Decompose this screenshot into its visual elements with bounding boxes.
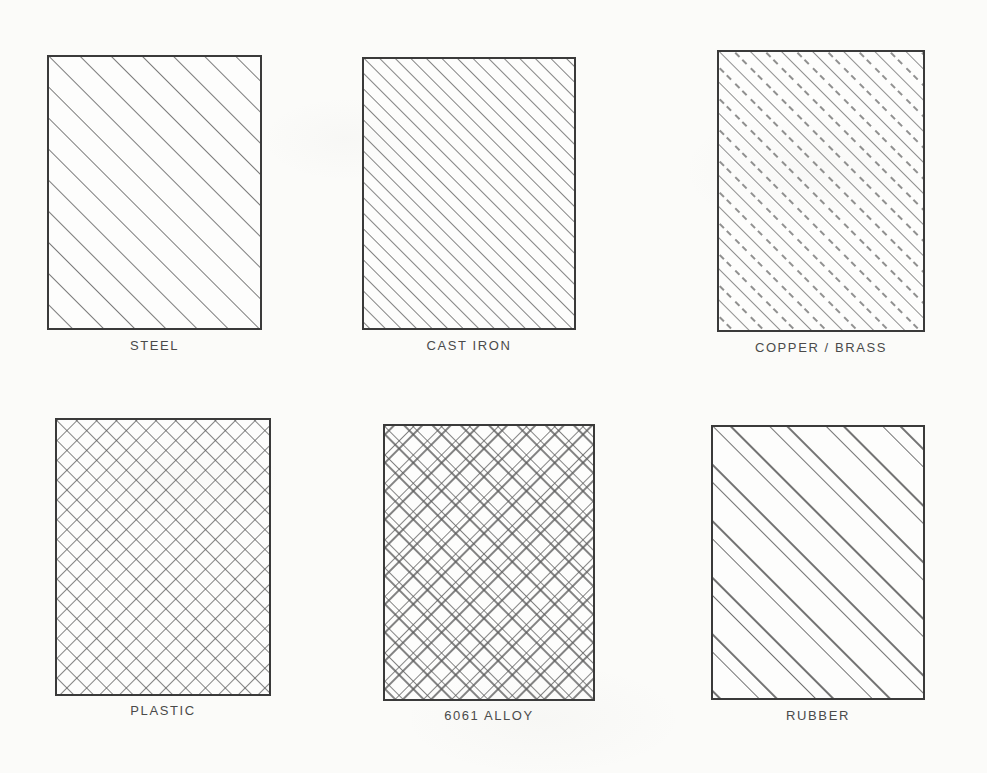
swatch-plastic: PLASTIC — [55, 418, 271, 696]
hatch-box-6061-alloy — [383, 424, 595, 701]
swatch-copper-brass: COPPER / BRASS — [717, 50, 925, 332]
swatch-steel: STEEL — [47, 55, 262, 330]
hatch-box-copper-brass — [717, 50, 925, 332]
swatch-rubber: RUBBER — [711, 425, 925, 700]
hatch-box-rubber — [711, 425, 925, 700]
hatch-pattern-sheet: STEEL CAST IRON — [0, 0, 987, 773]
hatch-box-cast-iron — [362, 57, 576, 330]
swatch-6061-alloy: 6061 ALLOY — [383, 424, 595, 701]
swatch-label-copper-brass: COPPER / BRASS — [717, 340, 925, 355]
swatch-label-6061-alloy: 6061 ALLOY — [383, 708, 595, 723]
swatch-label-steel: STEEL — [47, 338, 262, 353]
swatch-label-rubber: RUBBER — [711, 708, 925, 723]
hatch-box-steel — [47, 55, 262, 330]
swatch-label-cast-iron: CAST IRON — [362, 338, 576, 353]
swatch-cast-iron: CAST IRON — [362, 57, 576, 330]
swatch-label-plastic: PLASTIC — [55, 703, 271, 718]
hatch-box-plastic — [55, 418, 271, 696]
